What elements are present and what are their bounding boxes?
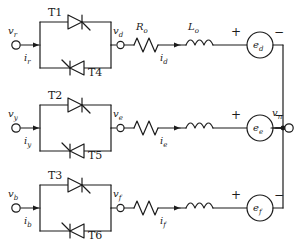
- input-terminal-y: [12, 124, 20, 132]
- thyristor-T3-body: [68, 178, 82, 192]
- label-polarity-plus-ed: +: [231, 26, 241, 38]
- inductor-Lo-body: [186, 40, 213, 45]
- label-branch-current-if: if: [160, 216, 166, 229]
- node-terminal-vd: [117, 41, 124, 48]
- inductor-row-y-body: [186, 123, 213, 128]
- node-terminal-ve: [117, 124, 124, 131]
- thyristor-T3-gate: [82, 185, 90, 193]
- label-node-voltage-vf: vf: [113, 189, 121, 202]
- label-polarity-plus-ef: +: [231, 189, 241, 201]
- label-polarity-plus-ee: +: [231, 109, 241, 121]
- label-thyristor-T3: T3: [48, 170, 62, 181]
- label-neutral-vn: vn: [272, 108, 282, 121]
- node-terminal-vf: [117, 204, 124, 211]
- label-polarity-minus-ef: −: [274, 189, 284, 201]
- label-input-voltage-y: vy: [8, 109, 18, 122]
- label-input-current-ir: ir: [24, 53, 31, 66]
- thyristor-T1-gate: [82, 22, 90, 30]
- thyristor-T5-body: [70, 144, 84, 158]
- label-emf-source-ef: ef: [253, 203, 262, 216]
- label-node-voltage-vd: vd: [113, 26, 123, 39]
- label-thyristor-T5: T5: [88, 150, 102, 161]
- label-resistor-Ro: Ro: [136, 22, 148, 35]
- label-emf-source-ed: ed: [253, 40, 263, 53]
- thyristor-T6-gate: [62, 223, 70, 231]
- thyristor-T6-body: [70, 224, 84, 238]
- label-input-voltage-r: vr: [8, 26, 17, 39]
- label-inductor-Lo: Lo: [188, 22, 199, 35]
- label-thyristor-T4: T4: [88, 67, 102, 78]
- label-polarity-minus-ed: −: [274, 26, 284, 38]
- label-branch-current-id: id: [160, 53, 168, 66]
- circuit-diagram: vr ir T1 T4 vd Ro Lo id + − ed vy iy T2 …: [0, 0, 296, 252]
- label-thyristor-T1: T1: [48, 7, 62, 18]
- thyristor-T2-gate: [82, 105, 90, 113]
- output-terminal-vn: [285, 124, 293, 132]
- label-input-current-ib: ib: [24, 216, 32, 229]
- thyristor-T1-body: [68, 15, 82, 29]
- resistor-row-y-body: [134, 121, 158, 135]
- label-node-voltage-ve: ve: [113, 109, 123, 122]
- label-input-current-iy: iy: [24, 136, 31, 149]
- label-input-voltage-b: vb: [8, 189, 18, 202]
- thyristor-T5-gate: [62, 143, 70, 151]
- row-y-wiring: [12, 98, 286, 158]
- thyristor-T4-gate: [62, 60, 70, 68]
- row-b-wiring: [12, 128, 283, 238]
- resistor-Ro-body: [134, 38, 158, 52]
- inductor-row-b-body: [186, 203, 213, 208]
- resistor-row-b-body: [134, 201, 158, 215]
- input-terminal-b: [12, 204, 20, 212]
- thyristor-T2-body: [68, 98, 82, 112]
- label-branch-current-ie: ie: [160, 136, 167, 149]
- label-thyristor-T2: T2: [48, 90, 62, 101]
- neutral-output-wiring: [283, 124, 293, 132]
- circuit-schematic-canvas: [0, 0, 296, 252]
- label-thyristor-T6: T6: [88, 230, 102, 241]
- input-terminal-r: [12, 41, 20, 49]
- thyristor-T4-body: [70, 61, 84, 75]
- label-emf-source-ee: ee: [253, 123, 263, 136]
